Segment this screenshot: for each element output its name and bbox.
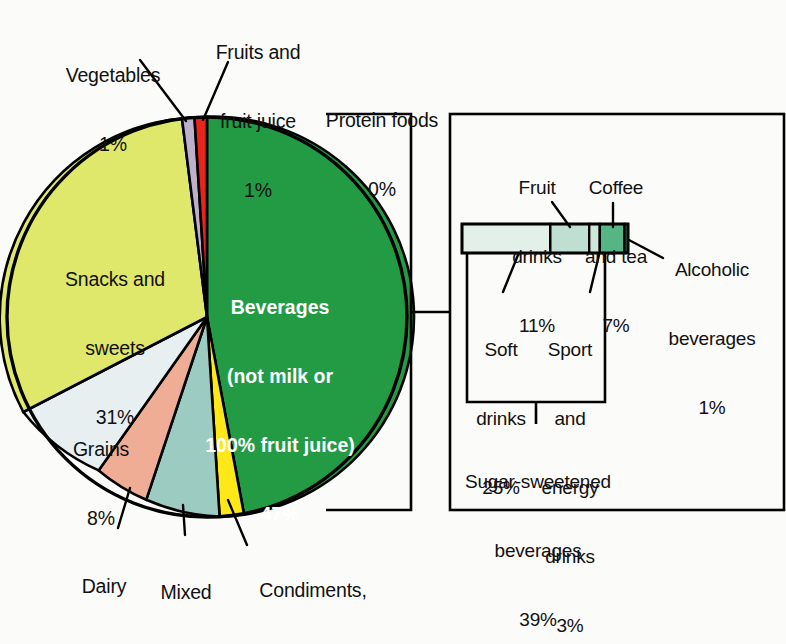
inset-label-coffee-line2: and tea	[585, 245, 647, 268]
pie-label-beverages-line1: Beverages	[205, 296, 355, 319]
pie-label-fruits-line2: fruit juice	[216, 110, 301, 133]
pie-label-protein-pct: 0%	[326, 178, 438, 201]
inset-label-sport-line1: Sport	[542, 338, 599, 361]
inset-label-alcoholic-line2: beverages	[669, 327, 756, 350]
pie-label-vegetables-name: Vegetables	[66, 64, 161, 87]
pie-label-beverages-pct: 47%	[205, 503, 355, 526]
inset-label-fruit-drinks-line2: drinks	[512, 245, 561, 268]
inset-label-sugar-line2: beverages	[465, 539, 611, 562]
inset-label-alcoholic-pct: 1%	[669, 396, 756, 419]
pie-label-fruits-pct: 1%	[216, 179, 301, 202]
pie-label-beverages-line3: 100% fruit juice)	[205, 434, 355, 457]
pie-label-snacks-line2: sweets	[65, 337, 165, 360]
inset-label-fruit-drinks-line1: Fruit	[512, 176, 561, 199]
pie-label-grains-pct: 8%	[73, 507, 129, 530]
pie-label-vegetables: Vegetables 1%	[66, 18, 161, 202]
pie-label-dairy: Dairy 4%	[82, 529, 127, 644]
pie-label-beverages-line2: (not milk or	[205, 365, 355, 388]
pie-label-mixed-line1: Mixed	[158, 581, 213, 604]
inset-label-alcoholic-beverages: Alcoholic beverages 1%	[669, 212, 756, 465]
pie-label-condiments-line1: Condiments,	[240, 579, 385, 602]
inset-label-sugar-sweetened-beverages: Sugar-sweetened beverages 39%	[465, 424, 611, 644]
pie-label-protein-foods: Protein foods 0%	[326, 63, 438, 247]
chart-canvas: Vegetables 1% Fruits and fruit juice 1% …	[0, 0, 786, 644]
inset-label-sugar-line1: Sugar-sweetened	[465, 470, 611, 493]
pie-label-fruits-fruit-juice: Fruits and fruit juice 1%	[216, 0, 301, 248]
pie-label-dairy-name: Dairy	[82, 575, 127, 598]
inset-label-sugar-pct: 39%	[465, 608, 611, 631]
pie-label-beverages: Beverages (not milk or 100% fruit juice)…	[205, 250, 355, 572]
pie-label-fruits-line1: Fruits and	[216, 41, 301, 64]
pie-label-snacks-line1: Snacks and	[65, 268, 165, 291]
pie-label-grains-name: Grains	[73, 438, 129, 461]
inset-label-alcoholic-line1: Alcoholic	[669, 258, 756, 281]
pie-label-vegetables-pct: 1%	[66, 133, 161, 156]
inset-label-coffee-line1: Coffee	[585, 176, 647, 199]
inset-label-soft-drinks-line1: Soft	[476, 338, 525, 361]
pie-label-protein-name: Protein foods	[326, 109, 438, 132]
